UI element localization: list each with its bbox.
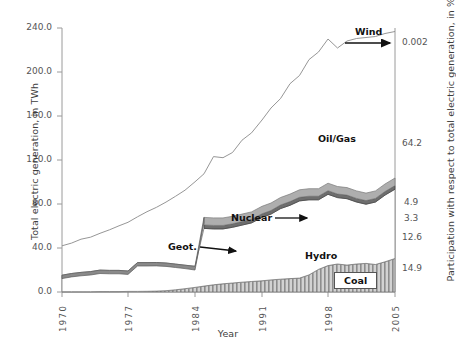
series-label-hydro: Hydro (305, 250, 337, 261)
series-label-nuclear: Nuclear (231, 212, 272, 223)
right-label-coal: 14.9 (402, 263, 422, 273)
ytick-label-0: 0.0 (10, 286, 52, 296)
y-axis-title-right: Participation with respect to total elec… (445, 42, 456, 282)
x-axis-ticks (62, 292, 395, 297)
y-axis-ticks (57, 28, 62, 292)
series-label-wind: Wind (355, 26, 382, 37)
right-label-wind: 0.002 (402, 37, 428, 47)
right-label-oil-gas: 64.2 (402, 138, 422, 148)
right-label-nuclear: 3.3 (404, 213, 418, 223)
ytick-label-240: 240.0 (10, 22, 52, 32)
series-label-geot: Geot. (168, 241, 197, 252)
x-axis-title: Year (0, 328, 456, 339)
chart-container: 240.0 200.0 160.0 120.0 80.0 40.0 0.0 0.… (0, 0, 456, 349)
y-axis-title-left: Total electric generation, in TWh (29, 62, 40, 262)
series-label-oil-gas: Oil/Gas (318, 133, 356, 144)
chart-plot-svg (0, 0, 456, 349)
right-label-hydro: 12.6 (402, 232, 422, 242)
right-label-geot: 4.9 (404, 197, 418, 207)
series-label-coal: Coal (334, 272, 377, 289)
